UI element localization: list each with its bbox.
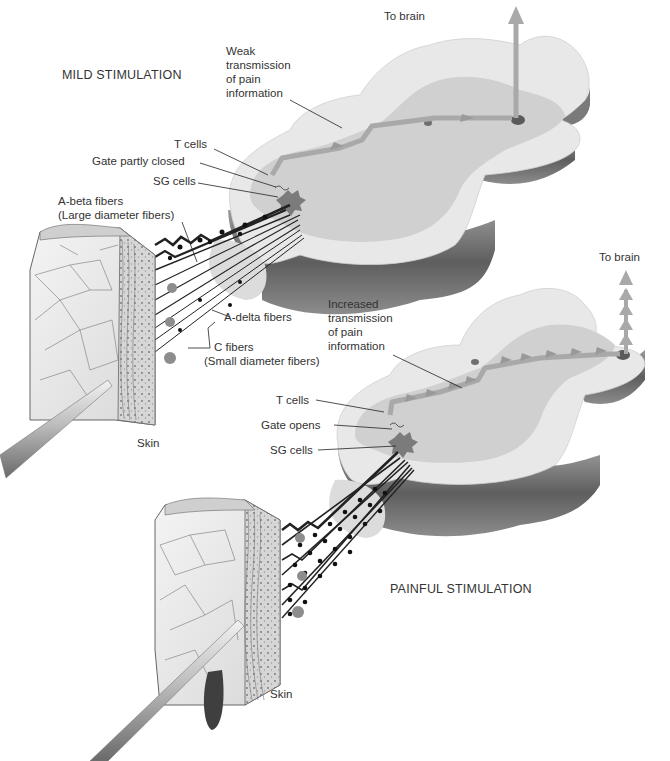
a-beta-line: A-beta fibers bbox=[58, 194, 174, 208]
c-fibers-line: (Small diameter fibers) bbox=[204, 354, 320, 368]
to-brain-label-painful: To brain bbox=[599, 250, 640, 264]
mild-stimulation-title: MILD STIMULATION bbox=[62, 68, 182, 82]
transmission-line: information bbox=[226, 86, 291, 100]
c-fibers-line: C fibers bbox=[204, 340, 320, 354]
transmission-line: Increased bbox=[328, 297, 393, 311]
t-cells-label-mild: T cells bbox=[174, 137, 207, 151]
sg-cells-label-mild: SG cells bbox=[153, 174, 196, 188]
transmission-line: information bbox=[328, 339, 393, 353]
increased-transmission-label: Increased transmission of pain informati… bbox=[328, 297, 393, 353]
ganglion-mild bbox=[164, 283, 177, 364]
transmission-line: transmission bbox=[226, 58, 291, 72]
transmission-line: of pain bbox=[226, 72, 291, 86]
a-beta-fibers-label: A-beta fibers (Large diameter fibers) bbox=[58, 194, 174, 222]
transmission-line: transmission bbox=[328, 311, 393, 325]
gate-partly-closed-label: Gate partly closed bbox=[92, 154, 185, 168]
to-brain-label-mild: To brain bbox=[384, 9, 425, 23]
painful-stimulation-title: PAINFUL STIMULATION bbox=[390, 582, 532, 596]
a-beta-line: (Large diameter fibers) bbox=[58, 208, 174, 222]
transmission-line: of pain bbox=[328, 325, 393, 339]
c-fibers-label: C fibers (Small diameter fibers) bbox=[204, 340, 320, 368]
a-delta-fibers-label: A-delta fibers bbox=[224, 310, 292, 324]
weak-transmission-label: Weak transmission of pain information bbox=[226, 44, 291, 100]
gate-opens-label: Gate opens bbox=[261, 418, 320, 432]
sg-cells-label-painful: SG cells bbox=[270, 443, 313, 457]
skin-label-mild: Skin bbox=[137, 436, 159, 450]
transmission-line: Weak bbox=[226, 44, 291, 58]
skin-label-painful: Skin bbox=[270, 687, 292, 701]
t-cells-label-painful: T cells bbox=[276, 393, 309, 407]
gate-control-diagram: MILD STIMULATION To brain Weak transmiss… bbox=[0, 0, 670, 761]
diagram-artwork bbox=[0, 0, 670, 761]
